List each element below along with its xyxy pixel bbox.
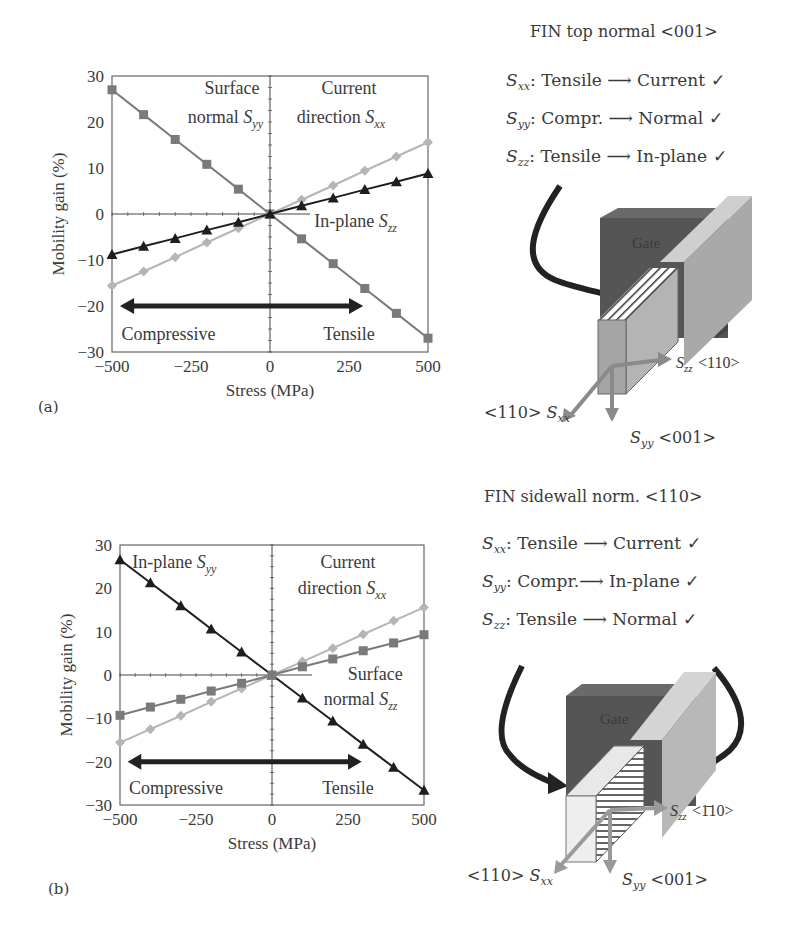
axis-b-xx-label: <110> Sxx (467, 866, 553, 888)
svg-text:−20: −20 (85, 753, 112, 772)
svg-text:Tensile: Tensile (322, 778, 374, 798)
svg-text:0: 0 (104, 666, 113, 685)
axis-a-xx-label: <110> Sxx (484, 403, 570, 425)
svg-text:10: 10 (87, 159, 104, 178)
svg-text:30: 30 (87, 67, 104, 86)
rule-a-sxx: Sxx: Tensile ⟶ Current ✓ (506, 70, 725, 93)
svg-text:20: 20 (87, 113, 104, 132)
svg-text:−10: −10 (85, 709, 112, 728)
svg-text:0: 0 (266, 357, 275, 376)
svg-text:250: 250 (336, 357, 362, 376)
axis-zz-dir: <110> (698, 354, 739, 371)
svg-text:Mobility gain (%): Mobility gain (%) (49, 153, 68, 276)
svg-text:0: 0 (268, 810, 277, 829)
gate-label: Gate (632, 235, 661, 251)
svg-text:500: 500 (415, 357, 441, 376)
svg-text:direction Sxx: direction Sxx (298, 578, 387, 602)
svg-text:−500: −500 (102, 810, 137, 829)
svg-text:20: 20 (95, 579, 112, 598)
svg-text:direction Sxx: direction Sxx (297, 107, 386, 131)
svg-text:250: 250 (335, 810, 361, 829)
svg-text:−500: −500 (94, 357, 129, 376)
axis-a-yy-label: Syy <001> (630, 428, 716, 450)
chart-b: 3020100−10−20−30−500−2500250500Stress (M… (0, 460, 460, 939)
fin-diagram-a: Gate Szz <110> (460, 170, 791, 430)
svg-text:Compressive: Compressive (121, 324, 215, 344)
chart-a: 3020100−10−20−30−500−2500250500Stress (M… (0, 0, 460, 440)
axis-b-yy-label: Syy <001> (622, 870, 708, 892)
curved-arrow-left-icon (501, 666, 556, 784)
svg-text:−20: −20 (77, 297, 104, 316)
rule-a-szz: Szz: Tensile ⟶ In-plane ✓ (506, 146, 727, 169)
diagram-b-title: FIN sidewall norm. <110> (484, 487, 702, 506)
svg-text:Surface: Surface (348, 664, 403, 684)
svg-text:10: 10 (95, 623, 112, 642)
svg-text:500: 500 (411, 810, 437, 829)
svg-text:30: 30 (95, 536, 112, 555)
svg-text:Surface: Surface (205, 78, 260, 98)
svg-text:normal Szz: normal Szz (324, 689, 398, 713)
gate-label-b: Gate (600, 711, 629, 727)
svg-text:normal Syy: normal Syy (188, 107, 264, 131)
svg-text:In-plane Szz: In-plane Szz (314, 211, 397, 235)
rule-a-syy: Syy: Compr. ⟶ Normal ✓ (506, 108, 723, 131)
svg-text:Current: Current (321, 552, 376, 572)
fin-diagram-b: Gate Szz <1̄10> (460, 660, 791, 939)
axis-zz-dir-b: <1̄10> (692, 802, 733, 819)
svg-text:0: 0 (96, 205, 105, 224)
panel-label-a: (a) (38, 398, 59, 416)
svg-text:−250: −250 (173, 357, 208, 376)
svg-text:Stress (MPa): Stress (MPa) (228, 834, 316, 853)
svg-text:Mobility gain (%): Mobility gain (%) (57, 614, 76, 737)
svg-text:In-plane Syy: In-plane Syy (132, 552, 217, 576)
panel-label-b: (b) (48, 880, 69, 898)
svg-text:−250: −250 (178, 810, 213, 829)
rule-b-szz: Szz: Tensile ⟶ Normal ✓ (482, 609, 697, 632)
svg-text:Stress (MPa): Stress (MPa) (226, 381, 314, 400)
svg-text:Tensile: Tensile (323, 324, 375, 344)
rule-b-syy: Syy: Compr.⟶ In-plane ✓ (482, 571, 699, 594)
svg-text:Compressive: Compressive (129, 778, 223, 798)
rule-b-sxx: Sxx: Tensile ⟶ Current ✓ (482, 533, 701, 556)
svg-text:Current: Current (322, 78, 377, 98)
diagram-a-title: FIN top normal <001> (530, 22, 718, 41)
svg-text:−10: −10 (77, 251, 104, 270)
